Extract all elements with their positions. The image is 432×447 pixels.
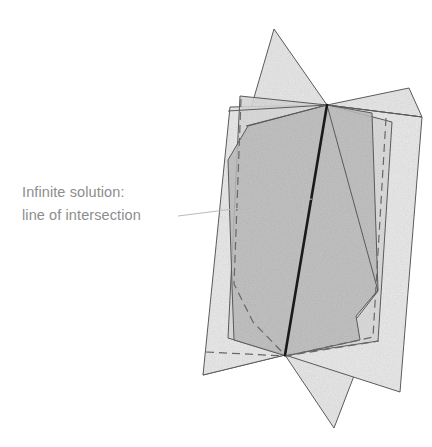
annotation-line-2: line of intersection — [22, 204, 187, 227]
plane-c-core — [228, 105, 378, 356]
annotation-line-1: Infinite solution: — [22, 181, 187, 204]
annotation-label: Infinite solution: line of intersection — [22, 181, 187, 227]
